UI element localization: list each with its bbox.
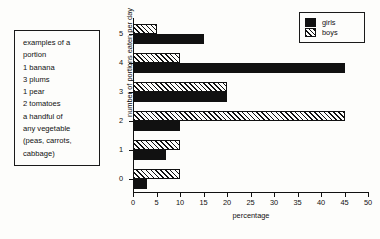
x-tick-label-25: 25 — [246, 199, 254, 206]
bar-boys-2 — [133, 111, 345, 121]
list-item: 1 banana — [23, 62, 92, 74]
bar-girls-1 — [133, 150, 166, 160]
x-tick-mark-35 — [298, 193, 299, 197]
list-item: cabbage) — [23, 148, 92, 160]
bar-group-2 — [133, 105, 368, 134]
x-tick-mark-5 — [157, 193, 158, 197]
y-tick-label-3: 3 — [119, 88, 123, 95]
y-axis-title: number of portions eaten per day — [125, 0, 134, 138]
y-tick-mark-0 — [129, 179, 133, 180]
chart-legend: girls boys — [299, 12, 365, 43]
x-tick-mark-0 — [133, 193, 134, 197]
x-tick-label-20: 20 — [223, 199, 231, 206]
bar-girls-2 — [133, 121, 180, 131]
x-tick-label-35: 35 — [293, 199, 301, 206]
list-item: a handful of — [23, 111, 92, 123]
x-tick-mark-10 — [180, 193, 181, 197]
x-tick-label-45: 45 — [340, 199, 348, 206]
bar-boys-5 — [133, 24, 157, 34]
bar-group-3 — [133, 76, 368, 105]
x-tick-mark-30 — [274, 193, 275, 197]
x-tick-label-15: 15 — [199, 199, 207, 206]
x-tick-label-30: 30 — [270, 199, 278, 206]
bar-boys-3 — [133, 82, 227, 92]
bar-chart: number of portions eaten per day percent… — [106, 8, 378, 233]
list-item: 3 plums — [23, 74, 92, 86]
y-tick-mark-5 — [129, 34, 133, 35]
list-item: (peas, carrots, — [23, 135, 92, 147]
x-tick-label-40: 40 — [317, 199, 325, 206]
y-tick-mark-2 — [129, 121, 133, 122]
y-tick-label-4: 4 — [119, 59, 123, 66]
x-tick-mark-15 — [204, 193, 205, 197]
legend-swatch-girls-icon — [305, 18, 316, 27]
x-tick-mark-45 — [345, 193, 346, 197]
y-tick-label-0: 0 — [119, 175, 123, 182]
list-item: 1 pear — [23, 86, 92, 98]
plot-area — [133, 18, 368, 192]
list-item: examples of a — [23, 37, 92, 49]
x-tick-mark-50 — [368, 193, 369, 197]
y-tick-mark-1 — [129, 150, 133, 151]
x-tick-mark-25 — [251, 193, 252, 197]
legend-entry-girls: girls — [305, 18, 359, 27]
bar-group-0 — [133, 163, 368, 192]
bar-girls-5 — [133, 34, 204, 44]
legend-entry-boys: boys — [305, 28, 359, 37]
bar-group-4 — [133, 47, 368, 76]
bar-girls-3 — [133, 92, 227, 102]
x-tick-label-10: 10 — [176, 199, 184, 206]
x-axis-title: percentage — [133, 211, 369, 220]
bar-group-1 — [133, 134, 368, 163]
portion-examples-box: examples of a portion 1 banana 3 plums 1… — [14, 30, 100, 166]
bar-boys-4 — [133, 53, 180, 63]
bar-girls-0 — [133, 179, 147, 189]
legend-swatch-boys-icon — [305, 28, 316, 37]
x-tick-label-0: 0 — [131, 199, 135, 206]
x-tick-label-5: 5 — [154, 199, 158, 206]
chart-page: examples of a portion 1 banana 3 plums 1… — [0, 0, 380, 239]
x-tick-label-50: 50 — [364, 199, 372, 206]
portion-examples-list: examples of a portion 1 banana 3 plums 1… — [23, 37, 92, 160]
list-item: any vegetable — [23, 123, 92, 135]
bar-boys-1 — [133, 140, 180, 150]
bar-girls-4 — [133, 63, 345, 73]
y-tick-label-5: 5 — [119, 30, 123, 37]
y-tick-mark-4 — [129, 63, 133, 64]
x-tick-mark-40 — [321, 193, 322, 197]
x-tick-mark-20 — [227, 193, 228, 197]
legend-label-boys: boys — [322, 29, 338, 36]
list-item: portion — [23, 49, 92, 61]
y-tick-label-2: 2 — [119, 117, 123, 124]
legend-label-girls: girls — [322, 19, 336, 26]
list-item: 2 tomatoes — [23, 98, 92, 110]
y-tick-mark-3 — [129, 92, 133, 93]
bar-boys-0 — [133, 169, 180, 179]
y-tick-label-1: 1 — [119, 146, 123, 153]
